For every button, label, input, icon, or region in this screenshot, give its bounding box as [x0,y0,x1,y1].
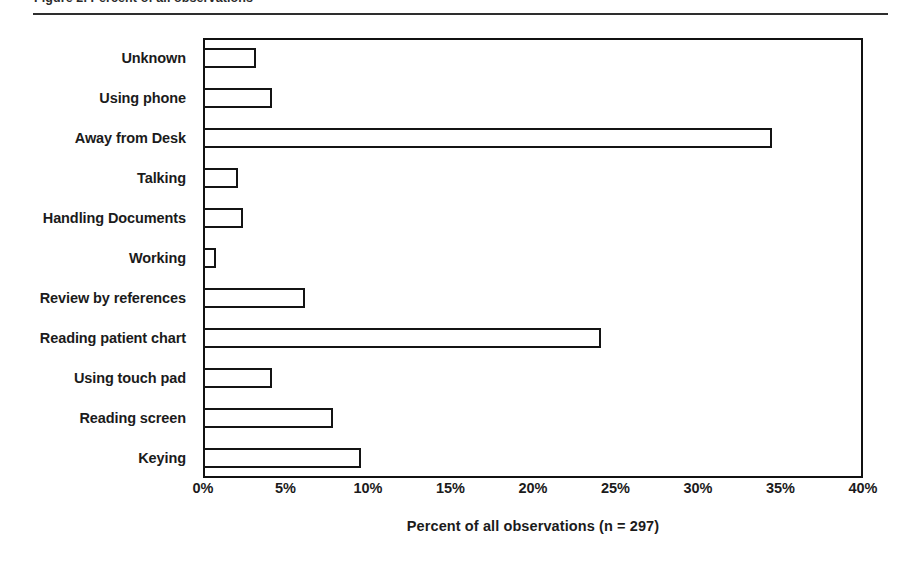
y-axis-tick-keying: Keying [0,438,195,478]
y-axis-tick-label: Away from Desk [75,130,186,146]
bar-row [203,398,863,438]
y-axis-tick-review-by-references: Review by references [0,278,195,318]
bar-row [203,158,863,198]
y-axis-tick-talking: Talking [0,158,195,198]
bar-series [203,38,863,478]
x-axis-tick-label: 15% [436,480,465,496]
x-axis-tick-label: 30% [683,480,712,496]
bar-row [203,198,863,238]
bar [203,208,243,228]
x-axis-ticks: 0% 5% 10% 15% 20% 25% 30% 35% 40% [203,480,863,506]
bar-row [203,118,863,158]
y-axis-tick-unknown: Unknown [0,38,195,78]
y-axis-tick-label: Working [129,250,186,266]
bar [203,88,272,108]
bar [203,48,256,68]
bar-row [203,358,863,398]
bar [203,288,305,308]
bar [203,168,238,188]
y-axis-tick-label: Using touch pad [74,370,186,386]
y-axis-tick-away-from-desk: Away from Desk [0,118,195,158]
y-axis-labels: Unknown Using phone Away from Desk Talki… [0,38,195,478]
y-axis-tick-using-phone: Using phone [0,78,195,118]
bar-chart: Unknown Using phone Away from Desk Talki… [0,0,906,565]
x-axis-tick-label: 5% [275,480,296,496]
x-axis-tick-label: 20% [518,480,547,496]
y-axis-tick-working: Working [0,238,195,278]
bar-row [203,438,863,478]
figure-page: Figure 2. Percent of all observations Un… [0,0,906,565]
bar [203,128,772,148]
bar [203,408,333,428]
y-axis-tick-reading-screen: Reading screen [0,398,195,438]
bar [203,368,272,388]
y-axis-tick-label: Talking [137,170,186,186]
x-axis-title: Percent of all observations (n = 297) [203,518,863,534]
y-axis-tick-label: Review by references [40,290,186,306]
y-axis-tick-handling-documents: Handling Documents [0,198,195,238]
x-axis-tick-label: 25% [601,480,630,496]
bar-row [203,238,863,278]
y-axis-tick-label: Keying [138,450,186,466]
y-axis-tick-reading-patient-chart: Reading patient chart [0,318,195,358]
x-axis-tick-label: 0% [193,480,214,496]
bar-row [203,278,863,318]
y-axis-tick-using-touch-pad: Using touch pad [0,358,195,398]
y-axis-tick-label: Reading screen [79,410,186,426]
x-axis-tick-label: 35% [766,480,795,496]
y-axis-tick-label: Reading patient chart [40,330,186,346]
bar [203,328,601,348]
bar-row [203,78,863,118]
y-axis-tick-label: Using phone [99,90,186,106]
bar-row [203,38,863,78]
x-axis-tick-label: 40% [848,480,877,496]
bar [203,248,216,268]
y-axis-tick-label: Handling Documents [43,210,186,226]
bar-row [203,318,863,358]
x-axis-tick-label: 10% [353,480,382,496]
bar [203,448,361,468]
y-axis-tick-label: Unknown [121,50,186,66]
